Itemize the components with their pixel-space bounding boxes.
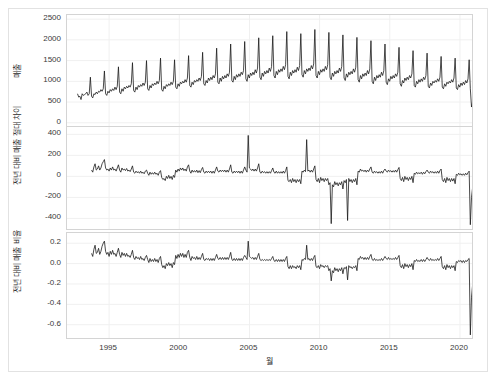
y-tick-label: -0.4 [23, 298, 61, 307]
y-tick-label: 0 [23, 117, 61, 126]
x-axis-label-month: 월 [240, 355, 300, 366]
y-tick-label: -200 [23, 191, 61, 200]
y-tick-label: 400 [23, 128, 61, 137]
y-tick-label: 500 [23, 96, 61, 105]
x-tick-label: 2020 [439, 343, 479, 352]
y-axis-label-sales: 매출 [11, 64, 22, 78]
y-tick-label: 0.2 [23, 237, 61, 246]
plot-area-yoy-difference [66, 126, 473, 230]
y-axis-label-yoy-ratio: 전년 대비 매출 비율 [11, 279, 22, 293]
panel-yoy-difference [66, 126, 473, 230]
y-tick-label: 2500 [23, 13, 61, 22]
chart-screenshot: 매출 전년 대비 매출 절대 차이 전년 대비 매출 비율 월 05001000… [0, 0, 497, 381]
x-tick-label: 2005 [228, 343, 268, 352]
x-tick-label: 2010 [299, 343, 339, 352]
x-tick-label: 2015 [369, 343, 409, 352]
y-tick-label: -0.2 [23, 278, 61, 287]
y-tick-label: -400 [23, 212, 61, 221]
yoy-difference-line-svg [67, 127, 473, 230]
y-tick-label: 0.0 [23, 258, 61, 267]
panel-sales [66, 14, 473, 128]
plot-area-yoy-ratio [66, 232, 473, 339]
y-axis-label-yoy-difference: 전년 대비 매출 절대 차이 [11, 171, 22, 185]
y-tick-label: 200 [23, 149, 61, 158]
sales-line-svg [67, 15, 473, 128]
x-tick-label: 2000 [158, 343, 198, 352]
y-tick-label: 2000 [23, 34, 61, 43]
x-tick-label: 1995 [88, 343, 128, 352]
y-tick-label: 1500 [23, 55, 61, 64]
panel-yoy-ratio [66, 232, 473, 339]
y-tick-label: -0.6 [23, 319, 61, 328]
figure-frame: 매출 전년 대비 매출 절대 차이 전년 대비 매출 비율 월 05001000… [8, 8, 488, 372]
plot-area-sales [66, 14, 473, 128]
yoy-ratio-line-svg [67, 233, 473, 339]
y-tick-label: 1000 [23, 75, 61, 84]
y-tick-label: 0 [23, 170, 61, 179]
